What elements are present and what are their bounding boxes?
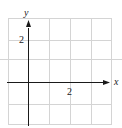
y-tick-label: 2: [19, 34, 24, 45]
y-axis-label: y: [23, 7, 29, 18]
x-tick-label: 2: [67, 86, 72, 97]
y-axis: [26, 20, 31, 126]
x-axis-arrow-icon: [103, 80, 110, 85]
coordinate-plane: y x 2 2: [0, 0, 122, 128]
y-axis-arrow-icon: [26, 20, 31, 27]
x-axis-label: x: [113, 76, 119, 87]
x-axis: [7, 80, 110, 85]
